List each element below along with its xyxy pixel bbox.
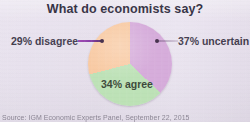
- slice-label-agree: 34% agree: [101, 78, 153, 90]
- pie-slices: [88, 22, 172, 106]
- leader-dot-disagree: [100, 39, 104, 43]
- leader-line-disagree: [78, 40, 102, 42]
- slice-label-uncertain: 37% uncertain: [178, 35, 249, 47]
- leader-line-uncertain: [158, 40, 178, 42]
- pie-chart-graphic: [88, 22, 172, 106]
- slice-label-disagree: 29% disagree: [11, 35, 78, 47]
- leader-dot-uncertain: [155, 39, 159, 43]
- pie-chart-figure: What do economists say? 29% disagree 37%…: [0, 0, 250, 122]
- chart-title: What do economists say?: [0, 2, 250, 16]
- source-note: Source: IGM Economic Experts Panel, Sept…: [2, 114, 190, 121]
